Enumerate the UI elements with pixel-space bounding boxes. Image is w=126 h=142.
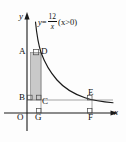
point-label-f: F (88, 113, 93, 122)
equation-denominator: x (50, 23, 55, 31)
equation-equals: = (42, 17, 47, 27)
x-axis-label: x (114, 108, 118, 117)
point-label-b: B (19, 93, 25, 102)
shaded-rectangle (31, 53, 42, 101)
curve-equation: y = 12 x (x>0) (38, 13, 77, 30)
hyperbola-curve (36, 22, 114, 103)
equation-numerator: 12 (48, 13, 58, 21)
equation-fraction: 12 x (48, 13, 58, 30)
point-label-c: C (42, 97, 48, 106)
origin-label: O (17, 113, 24, 122)
equation-condition: (x>0) (58, 17, 77, 27)
point-label-d: D (41, 47, 48, 56)
hyperbola-figure: y = 12 x (x>0) y x O A B C D E F G (0, 0, 126, 142)
y-axis-label: y (19, 12, 23, 21)
point-label-e: E (88, 88, 94, 97)
point-label-a: A (19, 47, 26, 56)
point-label-g: G (35, 113, 42, 122)
y-axis-arrow (24, 12, 29, 20)
